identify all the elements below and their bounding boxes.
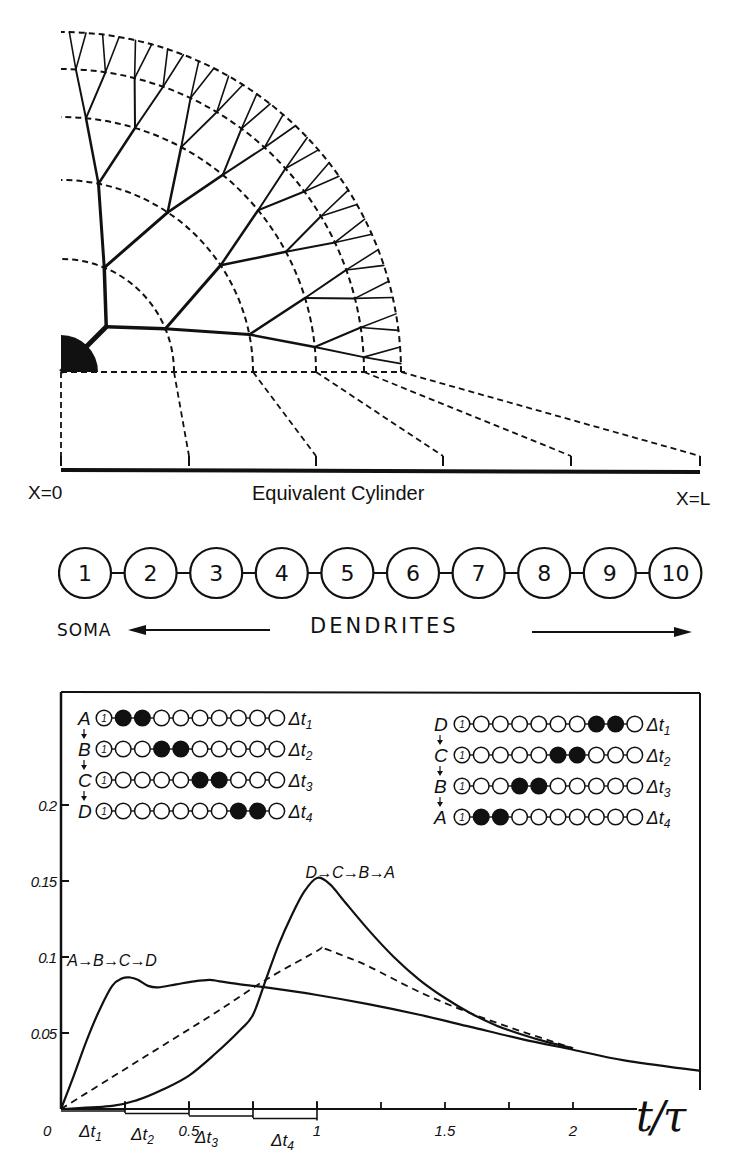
interval-label: Δt3 [194,1128,218,1150]
dendrite-branch [264,115,283,148]
chart-axes [61,692,700,1121]
compartment-dot [550,778,566,794]
sequence-letter: B [434,776,447,797]
compartment-dot [269,803,285,819]
compartment-dot [154,772,170,788]
svg-text:1: 1 [459,750,465,761]
compartment-dot [608,809,624,825]
dendritic-branches [61,32,401,372]
compartment-dot [493,716,509,732]
compartment-dot [115,803,131,819]
compartment-chain-svg: 12345678910 [58,545,718,601]
delta-t-label: Δt2 [288,740,313,763]
compartment-dot [473,747,489,763]
dendrite-branch [241,94,256,129]
svg-text:1: 1 [101,744,107,755]
stimulated-compartment [154,741,170,757]
dendrite-branch [105,37,119,72]
compartment-dot [96,710,112,726]
sequence-letter: C [434,745,448,766]
compartment-dot [627,809,643,825]
sequence-letter: C [78,770,92,791]
chart-labels: 0.050.10.150.200.511.52Δt1Δt2Δt3Δt4A→B→C… [31,797,578,1153]
curve-solid [61,878,573,1109]
cylinder-label-center: Equivalent Cylinder [252,482,424,505]
dendrite-branch [104,212,167,267]
stimulated-compartment [531,778,547,794]
compartment-dot [627,747,643,763]
compartment-dot [115,741,131,757]
compartment-dot [493,778,509,794]
dendrite-branch [98,184,104,268]
stimulated-compartment [173,741,189,757]
compartment-dot [192,741,208,757]
y-tick-label: 0.05 [31,1025,58,1042]
compartment-dot [135,803,151,819]
compartment-dot [211,710,227,726]
dendrite-branch [249,335,314,347]
compartment-dot [531,716,547,732]
shell-arc [61,32,401,372]
dendrite-branch [86,72,105,118]
stimulated-compartment [493,809,509,825]
svg-text:1: 1 [101,775,107,786]
compartment-dot [269,710,285,726]
compartment-dot [608,778,624,794]
compartment-dot [569,778,585,794]
x-tick-label: 1.5 [435,1122,457,1139]
dendrite-branch [98,128,135,184]
compartment-dot [135,772,151,788]
compartment-dot [627,778,643,794]
compartment-label: 9 [603,561,617,586]
dendrite-branch [315,347,364,357]
stimulated-compartment [231,803,247,819]
dendrite-branch [135,44,152,78]
compartment-dot [96,772,112,788]
svg-text:1: 1 [459,812,465,823]
compartment-dot [589,747,605,763]
dendrite-branch [361,314,396,328]
equivalent-cylinder [61,470,700,472]
cylinder-label-right: X=L [676,488,710,510]
compartment-label: 10 [661,561,689,586]
dendrites-label: DENDRITES [310,614,459,638]
compartment-dot [192,803,208,819]
compartment-dot [96,803,112,819]
interval-label: Δt4 [270,1131,294,1153]
compartment-dot [569,809,585,825]
cylinder-label-left: X=0 [28,482,62,504]
compartment-dot [589,809,605,825]
compartment-dot [154,803,170,819]
stimulated-compartment [473,809,489,825]
dendrite-branch [264,126,295,148]
curve-label: A→B→C→D [66,952,157,969]
dendrite-branch [76,33,86,69]
stimulated-compartment [608,716,624,732]
dendrite-branch [364,357,401,364]
sequence-letter: D [78,801,92,822]
compartment-label: 2 [144,561,158,586]
dendrite-branch [364,347,400,357]
dendrite-branch [86,118,98,183]
dendrite-branch [355,298,393,299]
compartment-dot [173,710,189,726]
interval-label: Δt1 [78,1122,102,1144]
isoelectrotonic-shells [61,32,405,372]
dendrite-branch [221,210,258,265]
x-tick-label: 1 [313,1122,321,1139]
compartment-chain: 12345678910 [58,545,718,601]
compartment-dot [231,741,247,757]
y-tick-label: 0.1 [38,949,57,966]
dendrite-branch [221,252,286,266]
dendrite-branch [103,35,106,73]
compartment-dot [250,772,266,788]
stimulated-compartment [211,772,227,788]
compartment-dot [192,710,208,726]
svg-text:1: 1 [101,806,107,817]
compartment-dot [269,741,285,757]
delta-t-label: Δt3 [288,771,313,794]
compartment-dot [493,747,509,763]
svg-text:1: 1 [459,719,465,730]
dendrite-branch [106,327,165,329]
compartment-dot [154,710,170,726]
